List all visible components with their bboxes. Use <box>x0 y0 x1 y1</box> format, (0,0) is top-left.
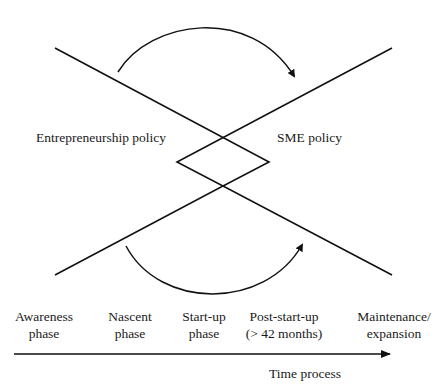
entrepreneurship-policy-label: Entrepreneurship policy <box>36 130 166 145</box>
phase-nascent: Nascent phase <box>108 309 152 341</box>
phase-awareness-line2: phase <box>29 326 60 341</box>
phase-start-up-line2: phase <box>189 326 220 341</box>
phase-post-start-up: Post-start-up (> 42 months) <box>246 309 323 341</box>
phase-nascent-line2: phase <box>115 326 146 341</box>
phase-maintenance-line2: expansion <box>367 326 422 341</box>
phase-start-up-line1: Start-up <box>182 309 226 324</box>
phase-maintenance-line1: Maintenance/ <box>357 309 431 324</box>
entrepreneurship-policy-line <box>55 48 392 275</box>
phase-post-start-up-line2: (> 42 months) <box>246 326 323 341</box>
phase-awareness: Awareness phase <box>15 309 73 341</box>
bottom-curved-arrow <box>126 245 302 294</box>
top-curved-arrow <box>118 28 294 76</box>
time-axis-label: Time process <box>269 366 341 381</box>
phase-maintenance: Maintenance/ expansion <box>357 309 431 341</box>
sme-policy-label: SME policy <box>277 130 342 145</box>
sme-policy-line <box>55 48 392 275</box>
phase-nascent-line1: Nascent <box>108 309 152 324</box>
phase-start-up: Start-up phase <box>182 309 226 341</box>
phase-post-start-up-line1: Post-start-up <box>250 309 319 324</box>
phase-awareness-line1: Awareness <box>15 309 73 324</box>
diagram-canvas: Entrepreneurship policy SME policy Aware… <box>0 0 448 386</box>
policy-diagram: Entrepreneurship policy SME policy Aware… <box>0 0 448 386</box>
